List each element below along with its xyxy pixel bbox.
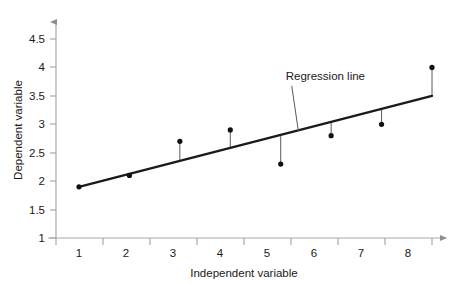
x-tick-label: 1: [76, 247, 82, 259]
x-axis-title: Independent variable: [190, 267, 297, 279]
y-tick-label: 4: [39, 61, 46, 73]
regression-line-annotation: Regression line: [286, 70, 365, 131]
x-tick-label: 5: [264, 247, 270, 259]
data-point: [228, 127, 233, 132]
y-tick-label: 4.5: [29, 33, 45, 45]
x-tick-label: 8: [405, 247, 411, 259]
regression-scatter-chart: 1 1.5 2 2.5 3 3.5 4 4.5 1 2 3 4 5 6: [0, 0, 456, 285]
y-tick-label: 2: [39, 175, 45, 187]
data-point: [177, 139, 182, 144]
y-tick-label: 2.5: [29, 147, 45, 159]
y-tick-label: 3: [39, 118, 45, 130]
data-point: [76, 184, 81, 189]
y-tick-label: 3.5: [29, 90, 45, 102]
x-tick-label: 7: [358, 247, 364, 259]
x-tick-label: 6: [311, 247, 317, 259]
y-tick-label: 1: [39, 232, 45, 244]
residual-lines-group: [129, 67, 432, 175]
chart-canvas: 1 1.5 2 2.5 3 3.5 4 4.5 1 2 3 4 5 6: [0, 0, 456, 285]
x-axis-ticks-group: 1 2 3 4 5 6 7 8: [56, 238, 432, 259]
data-points-group: [76, 65, 434, 190]
annotation-label: Regression line: [286, 70, 365, 82]
regression-line: [79, 96, 432, 187]
data-point: [127, 173, 132, 178]
y-tick-label: 1.5: [29, 204, 45, 216]
y-axis-title: Dependent variable: [12, 80, 24, 180]
y-axis-ticks-group: 1 1.5 2 2.5 3 3.5 4 4.5: [29, 33, 56, 244]
data-point: [329, 133, 334, 138]
annotation-leader-line: [292, 86, 299, 131]
axes-group: [48, 22, 446, 238]
data-point: [278, 161, 283, 166]
x-tick-label: 3: [170, 247, 176, 259]
data-point: [379, 122, 384, 127]
data-point: [429, 65, 434, 70]
x-tick-label: 4: [217, 247, 224, 259]
x-tick-label: 2: [123, 247, 129, 259]
